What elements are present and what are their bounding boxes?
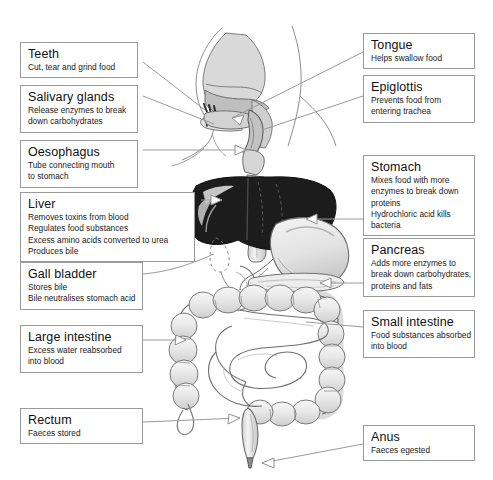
label-large-intestine[interactable]: Large intestine Excess water reabsorbed … bbox=[20, 325, 143, 373]
label-teeth[interactable]: Teeth Cut, tear and grind food bbox=[20, 42, 138, 78]
label-title: Anus bbox=[371, 430, 468, 444]
label-line: enzymes to break down bbox=[371, 186, 468, 196]
label-line: down carbohydrates bbox=[28, 116, 131, 126]
colon-haustra bbox=[169, 285, 345, 426]
label-title: Pancreas bbox=[371, 243, 468, 257]
small-intestine-shape bbox=[209, 310, 329, 406]
label-gall-bladder[interactable]: Gall bladder Stores bile Bile neutralise… bbox=[20, 262, 143, 310]
label-title: Tongue bbox=[371, 38, 468, 52]
label-line: Adds more enzymes to bbox=[371, 258, 468, 268]
label-line: break down carbohydrates, bbox=[371, 269, 468, 279]
label-title: Salivary glands bbox=[28, 90, 131, 104]
label-salivary-glands[interactable]: Salivary glands Release enzymes to break… bbox=[20, 85, 138, 133]
label-line: Stores bile bbox=[28, 282, 136, 292]
label-line: to stomach bbox=[28, 171, 131, 181]
label-stomach[interactable]: Stomach Mixes food with more enzymes to … bbox=[363, 155, 475, 236]
label-line: entering trachea bbox=[371, 106, 468, 116]
label-line: Faeces stored bbox=[28, 428, 136, 438]
label-title: Large intestine bbox=[28, 330, 136, 344]
label-title: Gall bladder bbox=[28, 267, 136, 281]
label-anus[interactable]: Anus Faeces egested bbox=[363, 425, 475, 461]
label-title: Stomach bbox=[371, 160, 468, 174]
label-line: proteins and fats bbox=[371, 281, 468, 291]
label-rectum[interactable]: Rectum Faeces stored bbox=[20, 408, 143, 444]
label-line: Regulates food substances bbox=[28, 223, 188, 233]
label-line: Excess amino acids converted to urea bbox=[28, 235, 188, 245]
label-line: Removes toxins from blood bbox=[28, 212, 188, 222]
label-tongue[interactable]: Tongue Helps swallow food bbox=[363, 33, 475, 69]
label-line: Prevents food from bbox=[371, 95, 468, 105]
label-line: Release enzymes to break bbox=[28, 105, 131, 115]
label-title: Oesophagus bbox=[28, 145, 131, 159]
label-line: bacteria bbox=[371, 220, 468, 230]
label-line: Excess water reabsorbed bbox=[28, 345, 136, 355]
label-title: Small intestine bbox=[371, 315, 468, 329]
tongue-shape bbox=[204, 111, 254, 129]
label-liver[interactable]: Liver Removes toxins from blood Regulate… bbox=[20, 192, 195, 262]
label-line: Tube connecting mouth bbox=[28, 160, 131, 170]
label-title: Liver bbox=[28, 197, 188, 211]
label-line: Bile neutralises stomach acid bbox=[28, 293, 136, 303]
digestive-system-diagram: Teeth Cut, tear and grind food Salivary … bbox=[0, 0, 493, 480]
label-line: into blood bbox=[371, 341, 468, 351]
label-line: into blood bbox=[28, 356, 136, 366]
label-line: Faeces egested bbox=[371, 445, 468, 455]
anus-shape bbox=[247, 458, 253, 468]
label-title: Teeth bbox=[28, 47, 131, 61]
label-line: Mixes food with more bbox=[371, 175, 468, 185]
label-line: Helps swallow food bbox=[371, 53, 468, 63]
label-title: Rectum bbox=[28, 413, 136, 427]
label-oesophagus[interactable]: Oesophagus Tube connecting mouth to stom… bbox=[20, 140, 138, 188]
label-line: proteins bbox=[371, 198, 468, 208]
large-intestine-shape bbox=[169, 285, 345, 435]
label-line: Food substances absorbed bbox=[371, 330, 468, 340]
label-pancreas[interactable]: Pancreas Adds more enzymes to break down… bbox=[363, 238, 475, 297]
label-epiglottis[interactable]: Epiglottis Prevents food from entering t… bbox=[363, 75, 475, 123]
label-small-intestine[interactable]: Small intestine Food substances absorbed… bbox=[363, 310, 475, 358]
label-line: Cut, tear and grind food bbox=[28, 62, 131, 72]
label-title: Epiglottis bbox=[371, 80, 468, 94]
label-line: Produces bile bbox=[28, 246, 188, 256]
label-line: Hydrochloric acid kills bbox=[371, 209, 468, 219]
